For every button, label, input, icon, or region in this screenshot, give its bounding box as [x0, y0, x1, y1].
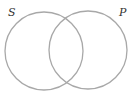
set-p-label: P	[118, 6, 127, 19]
venn-diagram: S P	[0, 0, 130, 100]
set-s-circle	[5, 12, 83, 90]
set-p-circle	[49, 11, 127, 89]
set-s-label: S	[8, 6, 16, 19]
